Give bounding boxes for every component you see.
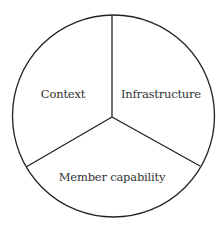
divider-left	[26, 117, 112, 167]
outer-circle	[13, 15, 215, 217]
segment-label-infrastructure: Infrastructure	[121, 89, 201, 101]
three-part-circle-diagram: Context Infrastructure Member capability	[0, 0, 221, 227]
divider-right	[112, 117, 200, 166]
segment-label-member-capability: Member capability	[59, 172, 165, 184]
segment-label-context: Context	[41, 89, 85, 101]
diagram-graphic	[0, 0, 221, 227]
